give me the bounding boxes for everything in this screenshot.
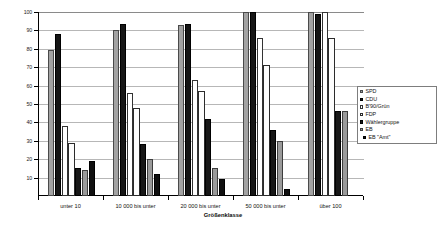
bar (113, 30, 119, 196)
bar (250, 12, 256, 196)
legend-item[interactable]: B'90/Grün (360, 103, 434, 111)
legend-item-label: B'90/Grün (365, 103, 389, 110)
legend-swatch-icon (360, 120, 363, 123)
legend-swatch-icon (360, 98, 363, 101)
legend-item-label: FDP (365, 111, 376, 118)
x-axis-title-wrap: Größenklasse (38, 0, 363, 1)
bar (48, 50, 54, 196)
y-tick-label: 30 (4, 138, 32, 144)
x-tick-mark (233, 196, 234, 200)
bar (205, 119, 211, 196)
bar (219, 179, 225, 196)
x-tick-mark (103, 196, 104, 200)
x-tick-mark (38, 196, 39, 200)
x-tick-label: über 100 (298, 203, 363, 210)
bar-group (234, 12, 299, 196)
legend-item[interactable]: FDP (360, 111, 434, 119)
bar-group (299, 12, 364, 196)
legend-item-label: Wählergruppe (365, 119, 399, 126)
legend-swatch-icon (360, 90, 363, 93)
bar (284, 189, 290, 196)
bar-chart: 0102030405060708090100 unter 1010 000 bi… (0, 0, 446, 246)
legend-swatch-icon (360, 113, 363, 116)
bar (270, 130, 276, 196)
bar (178, 25, 184, 196)
bar (342, 111, 348, 196)
x-tick-label: 10 000 bis unter (103, 203, 168, 210)
bar (328, 38, 334, 196)
legend-swatch-icon (360, 105, 363, 108)
bar (185, 24, 191, 196)
x-tick-label: unter 10 (38, 203, 103, 210)
y-tick-label: 50 (4, 101, 32, 107)
y-tick-label: 10 (4, 175, 32, 181)
x-axis-title: Größenklasse (0, 212, 446, 218)
bar (308, 12, 314, 196)
y-tick-label: 70 (4, 64, 32, 70)
bar-group (169, 12, 234, 196)
bar (147, 159, 153, 196)
bar-group (39, 12, 104, 196)
y-tick-label: 100 (4, 9, 32, 15)
bar (55, 34, 61, 196)
legend-item[interactable]: CDU (360, 96, 434, 104)
bar (68, 143, 74, 196)
bar (192, 80, 198, 196)
bar (140, 144, 146, 196)
bar (127, 93, 133, 196)
bar-group (104, 12, 169, 196)
legend: SPDCDUB'90/GrünFDPWählergruppeEBEB "Amt" (357, 86, 437, 144)
bar (322, 12, 328, 196)
bar (62, 126, 68, 196)
y-tick-label: 60 (4, 83, 32, 89)
bar (277, 141, 283, 196)
bar (82, 170, 88, 196)
legend-item[interactable]: Wählergruppe (360, 118, 434, 126)
legend-item-label: EB (365, 126, 372, 133)
legend-swatch-icon (363, 136, 366, 139)
legend-item-label: CDU (365, 96, 377, 103)
legend-item[interactable]: EB (360, 126, 434, 134)
legend-item-label: EB "Amt" (368, 134, 390, 141)
y-tick-label: 20 (4, 156, 32, 162)
y-tick-label: 40 (4, 119, 32, 125)
x-tick-label: 20 000 bis unter (168, 203, 233, 210)
bar (243, 12, 249, 196)
bar (263, 65, 269, 196)
x-tick-mark (168, 196, 169, 200)
x-tick-mark (298, 196, 299, 200)
legend-item[interactable]: EB "Amt" (360, 134, 434, 142)
bar-groups (39, 12, 363, 196)
bar (75, 168, 81, 196)
bar (120, 24, 126, 196)
x-tick-mark (363, 196, 364, 200)
bar (315, 14, 321, 196)
legend-swatch-icon (360, 128, 363, 131)
bar (212, 168, 218, 196)
legend-item[interactable]: SPD (360, 88, 434, 96)
bar (89, 161, 95, 196)
bar (198, 91, 204, 196)
x-tick-label: 50 000 bis unter (233, 203, 298, 210)
bar (133, 108, 139, 196)
bar (154, 174, 160, 196)
y-tick-label: 80 (4, 46, 32, 52)
y-tick-label: 90 (4, 27, 32, 33)
bar (335, 111, 341, 196)
legend-item-label: SPD (365, 88, 376, 95)
bar (257, 38, 263, 196)
